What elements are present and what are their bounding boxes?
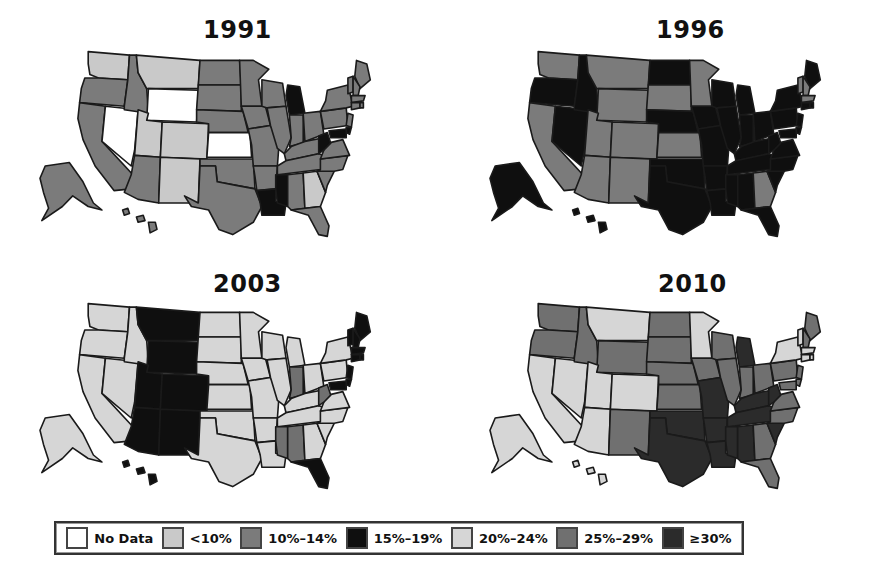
state-ar — [253, 166, 277, 191]
state-mi — [736, 337, 755, 367]
legend-item-lt10: <10% — [162, 527, 232, 549]
us-map — [28, 34, 388, 264]
state-ms — [276, 427, 288, 459]
state-wy — [147, 341, 199, 374]
state-ma — [801, 96, 815, 103]
state-nj — [346, 365, 353, 379]
state-md — [779, 381, 796, 390]
state-hi — [136, 215, 145, 222]
state-co — [610, 374, 658, 411]
state-mt — [136, 307, 200, 341]
legend-label: 25%–29% — [584, 531, 653, 546]
state-ks — [207, 133, 252, 158]
state-ct — [801, 355, 810, 362]
state-mi — [736, 85, 755, 115]
state-wi — [712, 80, 736, 108]
state-nd — [198, 60, 241, 85]
state-ms — [726, 175, 738, 207]
state-nm — [609, 409, 650, 455]
legend-swatch — [451, 527, 473, 549]
state-wa — [88, 304, 129, 332]
legend-swatch — [162, 527, 184, 549]
state-ak — [490, 163, 552, 221]
state-wy — [597, 341, 649, 374]
legend: No Data <10% 10%–14% 15%–19% 20%–24% 25%… — [54, 521, 744, 555]
state-in — [289, 115, 303, 147]
state-co — [610, 122, 658, 159]
state-fl — [291, 207, 329, 237]
state-wy — [147, 89, 199, 122]
state-al — [288, 425, 305, 462]
us-map — [478, 286, 838, 516]
legend-swatch — [556, 527, 578, 549]
state-or — [80, 330, 128, 358]
legend-item-no-data: No Data — [66, 527, 153, 549]
state-or — [530, 78, 578, 106]
state-wi — [262, 332, 286, 360]
state-ma — [801, 348, 815, 355]
state-fl — [741, 459, 779, 489]
map-panel-2010: 2010 — [478, 268, 878, 518]
state-hi — [148, 222, 157, 233]
state-mi — [286, 337, 305, 367]
state-fl — [291, 459, 329, 489]
state-wa — [538, 304, 579, 332]
state-md — [779, 129, 796, 138]
state-hi — [123, 208, 130, 215]
state-mi — [286, 85, 305, 115]
state-nm — [159, 157, 200, 203]
state-hi — [573, 208, 580, 215]
legend-item-15-19: 15%–19% — [346, 527, 443, 549]
state-mt — [586, 307, 650, 341]
legend-label: 10%–14% — [268, 531, 337, 546]
state-nj — [346, 113, 353, 127]
us-map — [478, 34, 838, 264]
state-co — [160, 374, 208, 411]
us-map — [28, 286, 388, 516]
state-ma — [351, 348, 365, 355]
state-wa — [538, 52, 579, 80]
state-wy — [597, 89, 649, 122]
state-ar — [703, 418, 727, 443]
state-nd — [648, 312, 691, 337]
state-wi — [712, 332, 736, 360]
map-panel-1991: 1991 — [28, 14, 428, 264]
state-ak — [490, 415, 552, 473]
legend-label: No Data — [94, 531, 153, 546]
legend-swatch — [346, 527, 368, 549]
state-al — [738, 173, 755, 210]
state-wi — [262, 80, 286, 108]
state-nm — [609, 157, 650, 203]
state-nj — [796, 113, 803, 127]
legend-item-gte30: ≥30% — [662, 527, 732, 549]
state-fl — [741, 207, 779, 237]
state-ak — [40, 163, 102, 221]
legend-label: ≥30% — [690, 531, 732, 546]
state-wa — [88, 52, 129, 80]
state-nd — [648, 60, 691, 85]
state-ct — [801, 103, 810, 110]
state-sd — [647, 85, 692, 111]
state-nm — [159, 409, 200, 455]
state-al — [288, 173, 305, 210]
legend-item-20-24: 20%–24% — [451, 527, 548, 549]
state-ri — [810, 103, 813, 108]
legend-label: 20%–24% — [479, 531, 548, 546]
legend-swatch — [662, 527, 684, 549]
state-ks — [657, 133, 702, 158]
state-nj — [796, 365, 803, 379]
state-or — [530, 330, 578, 358]
legend-swatch — [66, 527, 88, 549]
state-ks — [657, 385, 702, 410]
legend-item-25-29: 25%–29% — [556, 527, 653, 549]
map-panel-2003: 2003 — [28, 268, 428, 518]
state-ma — [351, 96, 365, 103]
state-in — [289, 367, 303, 399]
state-hi — [586, 467, 595, 474]
state-md — [329, 129, 346, 138]
state-ms — [726, 427, 738, 459]
state-in — [739, 367, 753, 399]
state-mt — [136, 55, 200, 89]
legend-item-10-14: 10%–14% — [240, 527, 337, 549]
legend-label: <10% — [190, 531, 232, 546]
